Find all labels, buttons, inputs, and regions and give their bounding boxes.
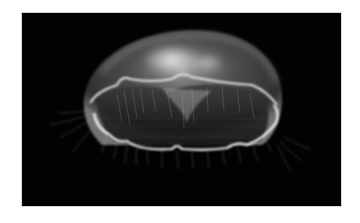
- jellyfish-photo: Moon jellyfish glowing against a black b…: [22, 13, 341, 206]
- jellyfish-illustration: [22, 13, 341, 206]
